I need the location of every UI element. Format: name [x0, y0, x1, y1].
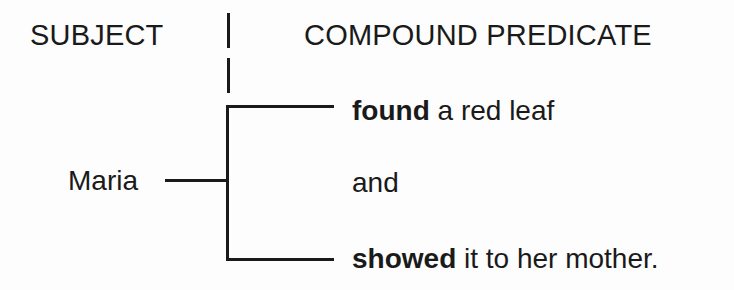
column-header-subject: SUBJECT: [30, 21, 164, 50]
column-divider-dash-lower: [227, 58, 230, 93]
bracket-arm-bottom: [226, 258, 334, 261]
bracket-spine: [226, 105, 229, 261]
predicate-conjunction: and: [352, 169, 399, 197]
predicate-object-first: a red leaf: [430, 95, 555, 126]
subject-label: Maria: [68, 167, 138, 195]
predicate-object-second: it to her mother.: [456, 243, 658, 274]
predicate-part-second: showed it to her mother.: [352, 245, 659, 273]
subject-connector-line: [165, 179, 229, 182]
column-divider-dash-upper: [227, 13, 230, 48]
column-header-predicate: COMPOUND PREDICATE: [304, 21, 652, 50]
predicate-verb-second: showed: [352, 243, 456, 274]
conjunction-label: and: [352, 167, 399, 198]
predicate-part-first: found a red leaf: [352, 97, 554, 125]
bracket-arm-top: [226, 105, 334, 108]
diagram-canvas: SUBJECT COMPOUND PREDICATE Maria found a…: [0, 0, 734, 290]
predicate-verb-first: found: [352, 95, 430, 126]
